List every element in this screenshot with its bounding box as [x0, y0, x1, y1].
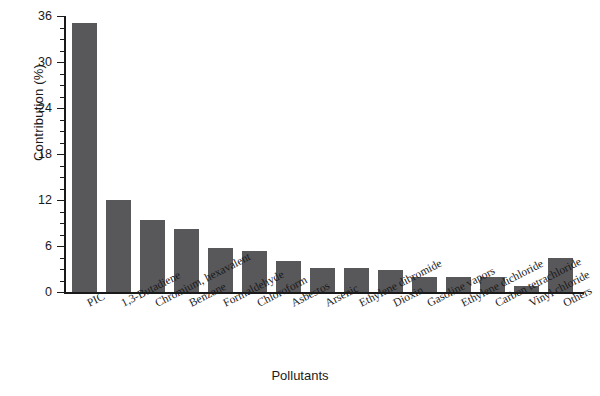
y-tick-minor: [60, 189, 65, 190]
y-tick-label: 12: [6, 193, 52, 207]
y-tick-major: [57, 154, 64, 155]
y-tick-minor: [60, 166, 65, 167]
y-tick-major: [57, 200, 64, 201]
y-tick-label: 24: [6, 101, 52, 115]
y-tick-minor: [60, 74, 65, 75]
bar: [106, 200, 131, 292]
y-tick-minor: [60, 235, 65, 236]
y-axis-line: [64, 16, 66, 293]
chart-page: Contribution (%) 061218243036 PIC1,3-But…: [0, 0, 600, 396]
bar: [72, 23, 97, 292]
y-tick-major: [57, 62, 64, 63]
y-tick-label: 30: [6, 55, 52, 69]
y-tick-minor: [60, 143, 65, 144]
y-tick-minor: [60, 97, 65, 98]
y-tick-minor: [60, 223, 65, 224]
y-tick-label: 36: [6, 9, 52, 23]
y-tick-minor: [60, 51, 65, 52]
y-tick-major: [57, 108, 64, 109]
x-axis-title: Pollutants: [0, 368, 600, 383]
y-tick-label: 18: [6, 147, 52, 161]
plot-area: 061218243036: [64, 16, 584, 292]
y-tick-minor: [60, 28, 65, 29]
y-tick-minor: [60, 212, 65, 213]
y-tick-label: 0: [6, 285, 52, 299]
y-tick-label: 6: [6, 239, 52, 253]
y-tick-minor: [60, 281, 65, 282]
y-tick-minor: [60, 120, 65, 121]
y-tick-minor: [60, 269, 65, 270]
y-tick-minor: [60, 85, 65, 86]
y-tick-major: [57, 16, 64, 17]
y-tick-minor: [60, 177, 65, 178]
y-tick-major: [57, 292, 64, 293]
y-tick-minor: [60, 258, 65, 259]
y-tick-minor: [60, 131, 65, 132]
y-tick-minor: [60, 39, 65, 40]
y-tick-major: [57, 246, 64, 247]
